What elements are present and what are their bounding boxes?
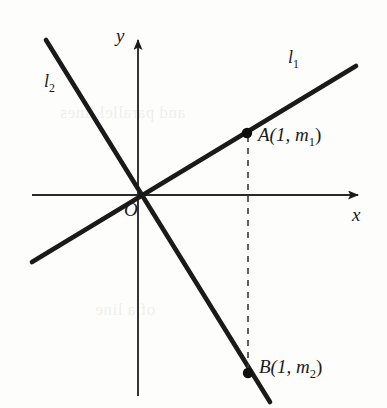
point-b-marker xyxy=(243,368,253,378)
origin-label: O xyxy=(124,200,138,219)
line-l1-label-subscript: 1 xyxy=(293,57,299,71)
point-b-label: B(1, m2) xyxy=(259,357,322,380)
point-a-label: A(1, m1) xyxy=(258,125,321,148)
point-b-label-variable: m xyxy=(296,356,310,377)
x-axis-label: x xyxy=(352,205,360,224)
point-a-marker xyxy=(242,128,252,138)
point-b-label-close: ) xyxy=(316,356,322,377)
line-l1-label: l1 xyxy=(288,48,299,70)
point-a-label-main: A(1, xyxy=(258,124,295,145)
point-a-label-close: ) xyxy=(315,124,321,145)
point-a-label-variable: m xyxy=(295,124,309,145)
figure-canvas xyxy=(0,0,387,408)
line-l2-label-subscript: 2 xyxy=(49,81,55,95)
point-b-label-main: B(1, xyxy=(259,356,296,377)
geometry-figure: and parallel lines of a line y x O xyxy=(0,0,387,408)
line-l2 xyxy=(46,40,270,402)
y-axis-label: y xyxy=(116,26,124,45)
line-l2-label: l2 xyxy=(44,72,55,94)
